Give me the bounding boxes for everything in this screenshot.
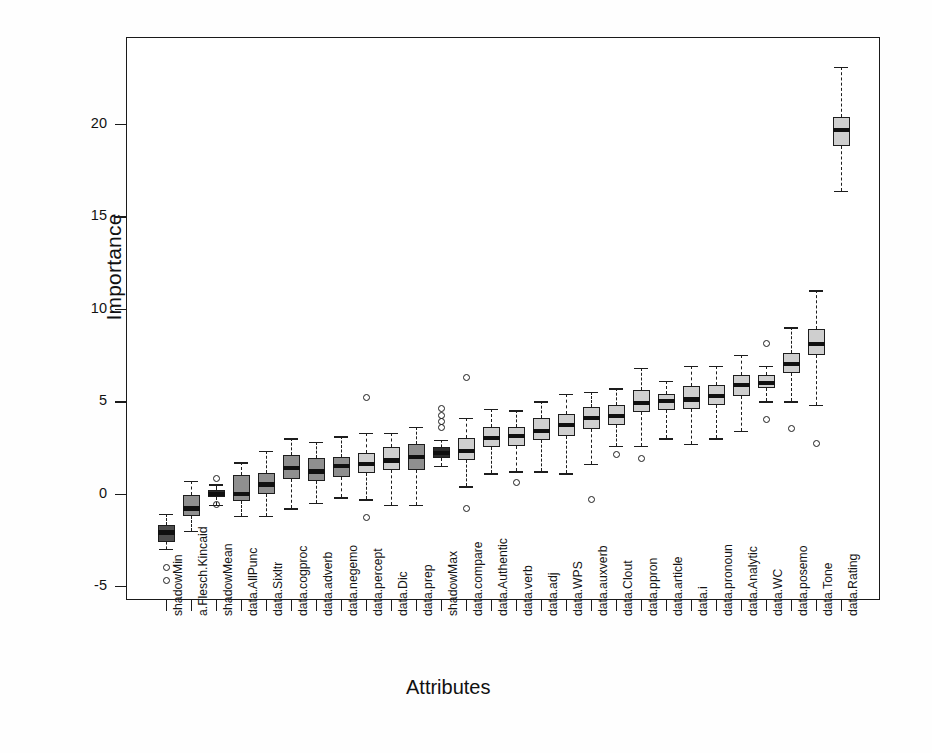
x-tick-mark <box>516 600 517 611</box>
x-tick-mark <box>591 600 592 611</box>
x-tick-label: data.ppron <box>646 558 660 616</box>
outlier-point <box>163 564 170 571</box>
median-line <box>358 462 375 466</box>
median-line <box>633 401 650 405</box>
upper-whisker-cap <box>459 418 473 419</box>
lower-whisker <box>691 409 692 444</box>
x-tick-label: data.AllPunc <box>246 548 260 616</box>
lower-whisker-cap <box>584 464 598 465</box>
lower-whisker <box>616 425 617 445</box>
x-tick-mark <box>241 600 242 611</box>
lower-whisker <box>766 388 767 401</box>
x-tick-mark <box>366 600 367 611</box>
upper-whisker <box>791 327 792 353</box>
y-tick-mark <box>115 216 126 217</box>
lower-whisker <box>416 470 417 505</box>
x-tick-label: a.Flesch.Kincaid <box>196 527 210 616</box>
outlier-point <box>463 505 470 512</box>
x-tick-mark <box>566 600 567 611</box>
upper-whisker-cap <box>484 409 498 410</box>
x-tick-label: data.prep <box>421 565 435 617</box>
upper-whisker-cap <box>409 427 423 428</box>
x-tick-label: data.Authentic <box>496 538 510 616</box>
lower-whisker-cap <box>159 549 173 550</box>
median-line <box>683 397 700 401</box>
lower-whisker-cap <box>309 503 323 504</box>
x-tick-mark <box>741 600 742 611</box>
x-tick-mark <box>841 600 842 611</box>
lower-whisker-cap <box>334 497 348 498</box>
lower-whisker-cap <box>659 438 673 439</box>
upper-whisker-cap <box>534 401 548 402</box>
outlier-point <box>813 440 820 447</box>
upper-whisker <box>341 436 342 456</box>
lower-whisker <box>391 470 392 505</box>
lower-whisker-cap <box>234 516 248 517</box>
x-tick-label: data.negemo <box>346 545 360 616</box>
outlier-point <box>363 514 370 521</box>
lower-whisker <box>441 458 442 465</box>
upper-whisker-cap <box>834 67 848 68</box>
upper-whisker <box>566 394 567 414</box>
x-tick-mark <box>766 600 767 611</box>
median-line <box>383 458 400 462</box>
upper-whisker <box>641 368 642 390</box>
lower-whisker-cap <box>534 471 548 472</box>
lower-whisker <box>666 410 667 438</box>
lower-whisker <box>741 396 742 431</box>
lower-whisker-cap <box>359 499 373 500</box>
upper-whisker-cap <box>284 438 298 439</box>
upper-whisker <box>666 381 667 394</box>
x-tick-mark <box>191 600 192 611</box>
median-line <box>208 492 225 496</box>
x-tick-mark <box>216 600 217 611</box>
lower-whisker <box>641 412 642 445</box>
outlier-point <box>463 374 470 381</box>
lower-whisker <box>566 436 567 473</box>
upper-whisker-cap <box>609 388 623 389</box>
x-tick-mark <box>816 600 817 611</box>
upper-whisker-cap <box>809 290 823 291</box>
lower-whisker <box>366 473 367 499</box>
upper-whisker-cap <box>309 442 323 443</box>
median-line <box>558 423 575 427</box>
lower-whisker-cap <box>384 505 398 506</box>
x-axis-title: Attributes <box>406 676 490 699</box>
x-tick-mark <box>391 600 392 611</box>
upper-whisker <box>716 366 717 384</box>
lower-whisker <box>716 405 717 438</box>
upper-whisker-cap <box>159 514 173 515</box>
upper-whisker-cap <box>559 394 573 395</box>
y-tick-label: -5 <box>94 577 107 593</box>
median-line <box>158 530 175 534</box>
median-line <box>258 482 275 486</box>
boxplot-figure: Importance Attributes 20151050-5 shadowM… <box>0 0 932 753</box>
upper-whisker <box>516 410 517 427</box>
lower-whisker <box>166 542 167 549</box>
median-line <box>808 342 825 346</box>
y-axis-title: Importance <box>102 147 126 387</box>
lower-whisker <box>791 373 792 401</box>
median-line <box>458 449 475 453</box>
upper-whisker <box>491 409 492 427</box>
median-line <box>533 429 550 433</box>
upper-whisker <box>741 355 742 375</box>
x-tick-label: shadowMin <box>171 554 185 616</box>
median-line <box>583 416 600 420</box>
upper-whisker <box>541 401 542 418</box>
y-tick-mark <box>115 124 126 125</box>
x-tick-mark <box>666 600 667 611</box>
upper-whisker-cap <box>584 392 598 393</box>
upper-whisker <box>366 433 367 453</box>
lower-whisker-cap <box>409 505 423 506</box>
median-line <box>658 399 675 403</box>
lower-whisker-cap <box>459 486 473 487</box>
median-line <box>608 414 625 418</box>
outlier-point <box>213 475 220 482</box>
x-tick-label: data.Tone <box>821 562 835 616</box>
outlier-point <box>163 577 170 584</box>
x-tick-label: data.verb <box>521 565 535 616</box>
x-tick-label: data.cogproc <box>296 546 310 616</box>
lower-whisker-cap <box>809 405 823 406</box>
x-tick-mark <box>341 600 342 611</box>
